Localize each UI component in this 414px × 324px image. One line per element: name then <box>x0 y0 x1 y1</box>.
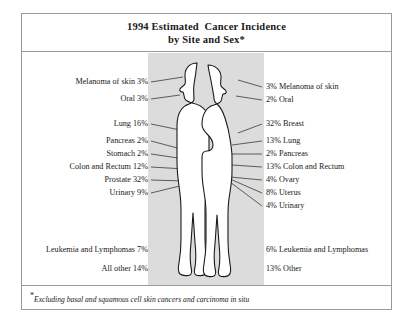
male-label-stomach: Stomach 2% <box>106 149 148 159</box>
female-label-other: 13% Other <box>266 264 302 273</box>
footnote: *Excluding basal and squamous cell skin … <box>30 291 249 304</box>
female-label-oral: 2% Oral <box>266 95 294 105</box>
female-figure-silhouette <box>202 65 232 277</box>
female-label-urinary: 4% Urinary <box>266 201 304 211</box>
female-label-uterus: 8% Uterus <box>266 188 301 198</box>
male-label-pancreas: Pancreas 2% <box>106 136 148 146</box>
male-label-melanoma-of-skin: Melanoma of skin 3% <box>75 77 148 87</box>
footnote-text: Excluding basal and squamous cell skin c… <box>34 295 249 304</box>
figure-title-area: 1994 Estimated Cancer Incidence by Site … <box>22 14 391 52</box>
male-label-prostate: Prostate 32% <box>105 175 148 185</box>
male-label-urinary: Urinary 9% <box>110 188 148 198</box>
male-label-all-other: All other 14% <box>102 264 148 273</box>
female-label-ovary: 4% Ovary <box>266 175 299 185</box>
female-label-colon-and-rectum: 13% Colon and Rectum <box>266 162 344 172</box>
page-title: 1994 Estimated Cancer Incidence <box>127 20 286 33</box>
male-label-colon-and-rectum: Colon and Rectum 12% <box>70 162 148 172</box>
female-label-leukemia-and-lymphomas: 6% Leukemia and Lymphomas <box>266 245 368 254</box>
male-label-oral: Oral 3% <box>120 94 148 104</box>
cancer-incidence-figure: 1994 Estimated Cancer Incidence by Site … <box>21 13 392 310</box>
figure-plot-area: Melanoma of skin 3% Oral 3% Lung 16% Pan… <box>22 53 391 286</box>
figure-footnote-area: *Excluding basal and squamous cell skin … <box>22 285 391 309</box>
female-label-pancreas: 2% Pancreas <box>266 149 308 159</box>
female-label-melanoma-of-skin: 3% Melanoma of skin <box>266 82 339 92</box>
female-label-breast: 32% Breast <box>266 119 304 129</box>
female-leader-lines <box>230 80 262 206</box>
female-label-lung: 13% Lung <box>266 136 300 146</box>
male-label-leukemia-and-lymphomas: Leukemia and Lymphomas 7% <box>46 245 148 254</box>
male-label-lung: Lung 16% <box>114 119 148 129</box>
page-subtitle: by Site and Sex* <box>168 33 245 46</box>
